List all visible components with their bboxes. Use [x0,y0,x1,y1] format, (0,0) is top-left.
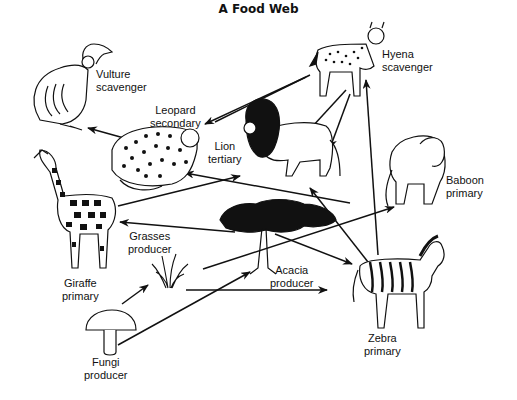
organism-role: producer [270,277,313,290]
zebra-icon [353,236,444,328]
fungi-icon [86,310,136,355]
organism-role: secondary [150,117,201,130]
organism-role: primary [364,345,401,358]
organism-name: Baboon [446,174,484,187]
organism-name: Fungi [84,356,127,369]
leopard-icon [112,127,199,190]
organism-name: Vulture [96,68,147,81]
organism-role: producer [128,243,171,256]
acacia-icon [220,200,336,275]
label-acacia: Acacia producer [270,264,313,290]
organism-role: primary [446,187,484,200]
arrow-fungi-to-grasses [122,285,148,304]
arrow-acacia-to-zebra [275,234,352,264]
label-giraffe: Giraffe primary [62,277,99,303]
label-lion: Lion tertiary [208,140,242,166]
label-leopard: Leopard secondary [150,104,201,130]
grasses-icon [152,254,188,288]
label-hyena: Hyena scavenger [382,48,433,74]
organism-role: tertiary [208,153,242,166]
food-web-diagram [0,0,517,400]
organism-role: producer [84,369,127,382]
label-zebra: Zebra primary [364,332,401,358]
organism-name: Hyena [382,48,433,61]
arrow-hyena-to-lion-head [330,94,350,148]
arrow-baboon-to-leopard [185,173,350,203]
arrow-leopard-to-vulture [88,128,124,138]
baboon-icon [386,136,445,206]
organism-role: scavenger [382,61,433,74]
label-vulture: Vulture scavenger [96,68,147,94]
organism-name: Acacia [270,264,313,277]
organism-name: Leopard [150,104,201,117]
label-grasses: Grasses producer [128,230,171,256]
giraffe-icon [34,150,115,268]
hyena-icon [310,22,384,96]
organism-name: Grasses [128,230,171,243]
organism-role: primary [62,290,99,303]
label-fungi: Fungi producer [84,356,127,382]
organism-name: Lion [208,140,242,153]
lion-icon [244,99,340,176]
organism-name: Giraffe [62,277,99,290]
label-baboon: Baboon primary [446,174,484,200]
organism-name: Zebra [364,332,401,345]
organism-role: scavenger [96,81,147,94]
arrow-zebra-to-hyena [366,80,378,255]
arrow-fungi-to-acacia [118,272,250,345]
